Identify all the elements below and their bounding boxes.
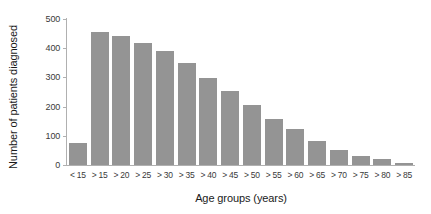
plot-area: 0100200300400500: [67, 19, 415, 165]
bar: [112, 36, 130, 165]
bar: [156, 51, 174, 165]
y-axis-tick-label: 300: [46, 72, 60, 82]
x-axis-tick-label: > 55: [263, 168, 285, 184]
bar-slot: [393, 19, 415, 165]
x-axis-tick-label: > 80: [372, 168, 394, 184]
y-axis-title: Number of patients diagnosed: [4, 12, 22, 182]
bar: [243, 105, 261, 165]
x-axis-line: [66, 165, 415, 166]
x-axis-tick-label: > 40: [198, 168, 220, 184]
x-axis-tick-label: > 85: [393, 168, 415, 184]
bar-slot: [89, 19, 111, 165]
bar: [330, 150, 348, 165]
x-axis-tick-label: > 25: [132, 168, 154, 184]
bar: [308, 141, 326, 165]
bar-slot: [328, 19, 350, 165]
bar-slot: [132, 19, 154, 165]
bar-slot: [350, 19, 372, 165]
x-axis-tick-label: > 30: [154, 168, 176, 184]
x-axis-tick-label: > 70: [328, 168, 350, 184]
bar-slot: [372, 19, 394, 165]
bar-slot: [198, 19, 220, 165]
bar-slot: [285, 19, 307, 165]
bar-slot: [67, 19, 89, 165]
bar-chart-figure: Number of patients diagnosed 01002003004…: [0, 0, 431, 214]
bar: [265, 119, 283, 165]
y-axis-tick-label: 100: [46, 131, 60, 141]
bar: [286, 129, 304, 165]
bar: [91, 32, 109, 165]
bar-slot: [154, 19, 176, 165]
x-axis-tick-labels: < 15> 15> 20> 25> 30> 35> 40> 45> 50> 55…: [67, 168, 415, 184]
x-axis-tick-label: > 75: [350, 168, 372, 184]
x-axis-tick-label: > 65: [306, 168, 328, 184]
x-axis-tick-label: > 50: [241, 168, 263, 184]
bar-slot: [176, 19, 198, 165]
x-axis-tick-label: > 60: [285, 168, 307, 184]
x-axis-tick-label: < 15: [67, 168, 89, 184]
y-axis-tick-label: 0: [55, 160, 60, 170]
x-axis-tick-label: > 45: [219, 168, 241, 184]
bar: [178, 63, 196, 165]
y-axis-tick-label: 500: [46, 14, 60, 24]
x-axis-tick-label: > 35: [176, 168, 198, 184]
bar: [395, 163, 413, 165]
x-axis-tick-label: > 20: [111, 168, 133, 184]
bar-slot: [111, 19, 133, 165]
bar-slot: [241, 19, 263, 165]
bar: [134, 43, 152, 165]
bar-slot: [306, 19, 328, 165]
bar-slot: [219, 19, 241, 165]
bar-series: [67, 19, 415, 165]
y-axis-tick-label: 200: [46, 102, 60, 112]
x-axis-tick-label: > 15: [89, 168, 111, 184]
bar: [352, 156, 370, 165]
bar: [69, 143, 87, 165]
bar: [199, 78, 217, 165]
bar-slot: [263, 19, 285, 165]
bar: [373, 159, 391, 165]
y-axis-tick-mark: [63, 165, 67, 166]
x-axis-title: Age groups (years): [66, 192, 416, 204]
bar: [221, 91, 239, 165]
y-axis-tick-label: 400: [46, 43, 60, 53]
